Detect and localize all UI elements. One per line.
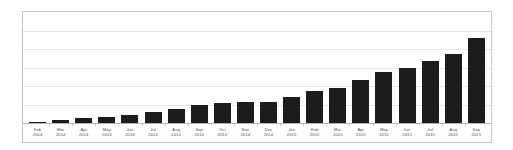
bar	[445, 54, 462, 123]
x-tick-label-year: 2015	[379, 133, 389, 138]
x-tick-label: Aug2014	[165, 124, 188, 142]
bar-slot	[188, 12, 211, 123]
x-tick-label-year: 2014	[171, 133, 181, 138]
x-tick-label-year: 2014	[194, 133, 204, 138]
x-tick-label: Nov2014	[234, 124, 257, 142]
bar-slot	[49, 12, 72, 123]
x-axis-tick	[211, 124, 212, 126]
x-tick-label-year: 2015	[448, 133, 458, 138]
x-tick-label-year: 2014	[218, 133, 228, 138]
bar-slot	[211, 12, 234, 123]
x-tick-label: Sep2014	[188, 124, 211, 142]
bar	[121, 115, 138, 123]
x-axis-tick	[234, 124, 235, 126]
bar-slot	[141, 12, 164, 123]
x-tick-label: Feb2014	[26, 124, 49, 142]
x-tick-label-year: 2015	[402, 133, 412, 138]
x-tick-label: Aug2015	[442, 124, 465, 142]
bar-slot	[165, 12, 188, 123]
bar	[399, 68, 416, 123]
bar-chart: Feb2014Mar2014Apr2014May2014Jun2014Jul20…	[0, 0, 513, 150]
bar	[168, 109, 185, 123]
bar-slot	[26, 12, 49, 123]
x-axis-tick	[257, 124, 258, 126]
bar-slot	[396, 12, 419, 123]
x-tick-label-year: 2014	[79, 133, 89, 138]
x-axis-tick	[373, 124, 374, 126]
x-tick-label: Oct2014	[211, 124, 234, 142]
bar-slot	[72, 12, 95, 123]
bar	[329, 88, 346, 123]
x-axis-tick	[142, 124, 143, 126]
x-tick-label-year: 2015	[356, 133, 366, 138]
x-axis-tick	[95, 124, 96, 126]
bar-slot	[280, 12, 303, 123]
bar	[214, 103, 231, 123]
x-tick-label: May2014	[95, 124, 118, 142]
x-tick-label: Apr2014	[72, 124, 95, 142]
bar-slot	[95, 12, 118, 123]
x-tick-label-year: 2015	[425, 133, 435, 138]
x-tick-label: Apr2015	[349, 124, 372, 142]
x-tick-label: May2015	[372, 124, 395, 142]
bar-slot	[257, 12, 280, 123]
bar-slot	[419, 12, 442, 123]
x-tick-label: Jun2014	[118, 124, 141, 142]
bar	[422, 61, 439, 123]
x-tick-label: Sep2015	[465, 124, 488, 142]
x-axis-tick	[49, 124, 50, 126]
bar-slot	[303, 12, 326, 123]
x-tick-label-year: 2014	[33, 133, 43, 138]
bar	[260, 102, 277, 123]
x-tick-label: Jul2014	[141, 124, 164, 142]
bar	[145, 112, 162, 123]
bars-area	[23, 12, 491, 123]
x-tick-label-year: 2014	[125, 133, 135, 138]
x-tick-label-year: 2014	[148, 133, 158, 138]
bar	[375, 72, 392, 123]
x-tick-label: Mar2015	[326, 124, 349, 142]
plot-frame: Feb2014Mar2014Apr2014May2014Jun2014Jul20…	[22, 11, 492, 143]
x-tick-label-year: 2015	[310, 133, 320, 138]
bar	[237, 102, 254, 123]
bar-slot	[234, 12, 257, 123]
bar-slot	[442, 12, 465, 123]
x-axis-tick	[396, 124, 397, 126]
bar	[191, 105, 208, 123]
bar-slot	[118, 12, 141, 123]
x-axis-tick	[165, 124, 166, 126]
x-tick-label-year: 2015	[472, 133, 482, 138]
x-tick-label: Dec2014	[257, 124, 280, 142]
x-axis-tick	[118, 124, 119, 126]
bar	[306, 91, 323, 123]
x-tick-label-year: 2015	[287, 133, 297, 138]
bar	[283, 97, 300, 123]
x-axis-tick	[188, 124, 189, 126]
x-axis-tick	[419, 124, 420, 126]
x-tick-label-year: 2014	[264, 133, 274, 138]
bar-slot	[349, 12, 372, 123]
x-tick-label: Jun2015	[396, 124, 419, 142]
x-axis-tick	[72, 124, 73, 126]
x-axis-tick	[280, 124, 281, 126]
x-axis-tick	[442, 124, 443, 126]
x-axis-tick	[326, 124, 327, 126]
x-tick-label-year: 2014	[56, 133, 66, 138]
x-tick-label: Mar2014	[49, 124, 72, 142]
x-tick-label-year: 2015	[333, 133, 343, 138]
x-axis-tick-labels: Feb2014Mar2014Apr2014May2014Jun2014Jul20…	[23, 124, 491, 142]
x-tick-label-year: 2014	[241, 133, 251, 138]
x-axis-tick	[465, 124, 466, 126]
x-axis-tick	[349, 124, 350, 126]
bar	[468, 38, 485, 123]
x-tick-label: Jan2015	[280, 124, 303, 142]
x-tick-label: Feb2015	[303, 124, 326, 142]
bar-slot	[326, 12, 349, 123]
x-tick-label: Jul2015	[419, 124, 442, 142]
bar-slot	[465, 12, 488, 123]
x-tick-label-year: 2014	[102, 133, 112, 138]
x-axis-tick	[303, 124, 304, 126]
bar-slot	[372, 12, 395, 123]
bar	[352, 80, 369, 123]
